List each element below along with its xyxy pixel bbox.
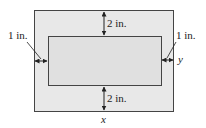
bottom-margin-label: 2 in. [107,92,127,104]
height-variable-label: y [177,53,183,65]
left-margin-label: 1 in. [8,29,28,41]
right-margin-label: 1 in. [176,29,196,41]
poster-diagram: 2 in. 2 in. 1 in. 1 in. y x [0,0,206,128]
inner-rectangle [49,37,162,86]
top-margin-label: 2 in. [107,17,127,29]
width-variable-label: x [100,113,106,125]
